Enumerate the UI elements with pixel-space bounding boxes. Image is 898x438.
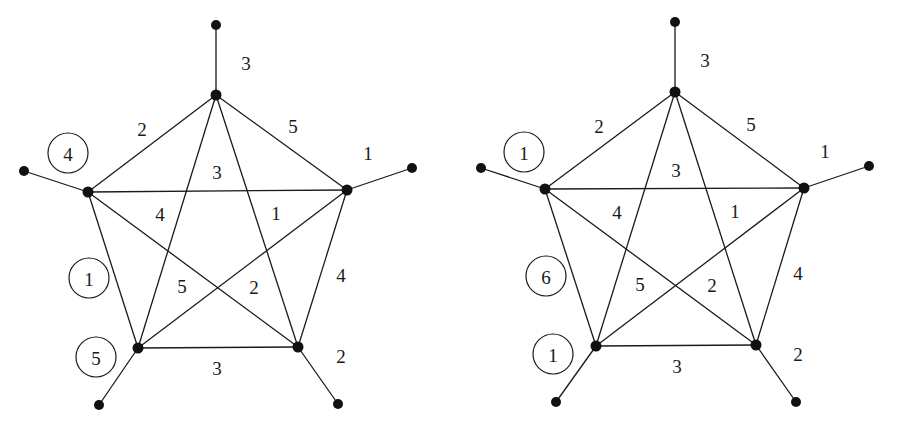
edge-weight-label: 3 xyxy=(671,160,681,181)
pendant-node-pL xyxy=(19,166,29,176)
edge-weight-label: 1 xyxy=(820,141,830,162)
circled-value: 4 xyxy=(63,144,73,165)
edge-L-BL xyxy=(545,189,596,346)
edge-R-BL xyxy=(596,188,804,346)
edge-T-L xyxy=(88,95,216,192)
edge-BR-pBR xyxy=(756,345,796,402)
edge-weight-label: 5 xyxy=(746,114,756,135)
edge-weight-label: 5 xyxy=(177,276,187,297)
diagram-canvas: 312253434125415 312253434125161 xyxy=(0,0,898,438)
edge-weight-label: 2 xyxy=(793,344,803,365)
edge-T-R xyxy=(675,92,804,188)
edge-L-R xyxy=(88,190,347,192)
pendant-node-pR xyxy=(864,161,874,171)
edge-L-BL xyxy=(88,192,138,348)
pendant-node-pT xyxy=(670,17,680,27)
edge-BL-pBL xyxy=(99,348,138,405)
circled-value: 1 xyxy=(519,143,529,164)
edge-weight-label: 3 xyxy=(700,50,710,71)
edge-R-pR xyxy=(804,166,869,188)
edge-L-pL xyxy=(481,168,545,189)
edge-weight-label: 2 xyxy=(137,119,147,140)
circled-value: 6 xyxy=(541,267,551,288)
edge-weight-label: 4 xyxy=(336,265,346,286)
vertex-node-R xyxy=(799,183,810,194)
pendant-node-pT xyxy=(211,20,221,30)
edge-weight-label: 2 xyxy=(336,346,346,367)
edge-BL-BR xyxy=(596,345,756,346)
pendant-node-pBR xyxy=(791,397,801,407)
edge-weight-label: 4 xyxy=(612,202,622,223)
edge-R-pR xyxy=(347,168,412,190)
pendant-node-pBR xyxy=(333,399,343,409)
graph-left: 312253434125415 xyxy=(19,20,417,410)
edge-BL-BR xyxy=(138,347,298,348)
edge-weight-label: 3 xyxy=(212,162,222,183)
edge-L-BR xyxy=(88,192,298,347)
edge-weight-label: 2 xyxy=(707,275,717,296)
circled-value: 5 xyxy=(91,348,101,369)
graph-right: 312253434125161 xyxy=(476,17,874,407)
edge-weight-label: 4 xyxy=(155,204,165,225)
edge-weight-label: 1 xyxy=(271,203,281,224)
edge-T-BR xyxy=(216,95,298,347)
pendant-node-pL xyxy=(476,163,486,173)
edge-T-BR xyxy=(675,92,756,345)
edge-weight-label: 2 xyxy=(249,277,259,298)
vertex-node-BR xyxy=(293,342,304,353)
edge-weight-label: 5 xyxy=(288,116,298,137)
edge-L-pL xyxy=(24,171,88,192)
edge-weight-label: 1 xyxy=(363,143,373,164)
edge-T-BL xyxy=(596,92,675,346)
edge-BL-pBL xyxy=(556,346,596,402)
pendant-node-pBL xyxy=(551,397,561,407)
edge-weight-label: 4 xyxy=(793,263,803,284)
vertex-node-L xyxy=(540,184,551,195)
edge-weight-label: 3 xyxy=(212,358,222,379)
edge-BR-pBR xyxy=(298,347,338,404)
vertex-node-T xyxy=(670,87,681,98)
edge-weight-label: 3 xyxy=(241,53,251,74)
edge-weight-label: 1 xyxy=(730,201,740,222)
pendant-node-pBL xyxy=(94,400,104,410)
edge-L-BR xyxy=(545,189,756,345)
edge-T-L xyxy=(545,92,675,189)
edge-R-BL xyxy=(138,190,347,348)
circled-value: 1 xyxy=(84,269,94,290)
edge-T-R xyxy=(216,95,347,190)
vertex-node-BR xyxy=(751,340,762,351)
edge-L-R xyxy=(545,188,804,189)
edge-T-BL xyxy=(138,95,216,348)
vertex-node-BL xyxy=(591,341,602,352)
circled-value: 1 xyxy=(548,345,558,366)
edge-weight-label: 3 xyxy=(672,356,682,377)
edge-weight-label: 2 xyxy=(594,116,604,137)
pendant-node-pR xyxy=(407,163,417,173)
vertex-node-L xyxy=(83,187,94,198)
vertex-node-R xyxy=(342,185,353,196)
vertex-node-T xyxy=(211,90,222,101)
vertex-node-BL xyxy=(133,343,144,354)
edge-weight-label: 5 xyxy=(635,274,645,295)
